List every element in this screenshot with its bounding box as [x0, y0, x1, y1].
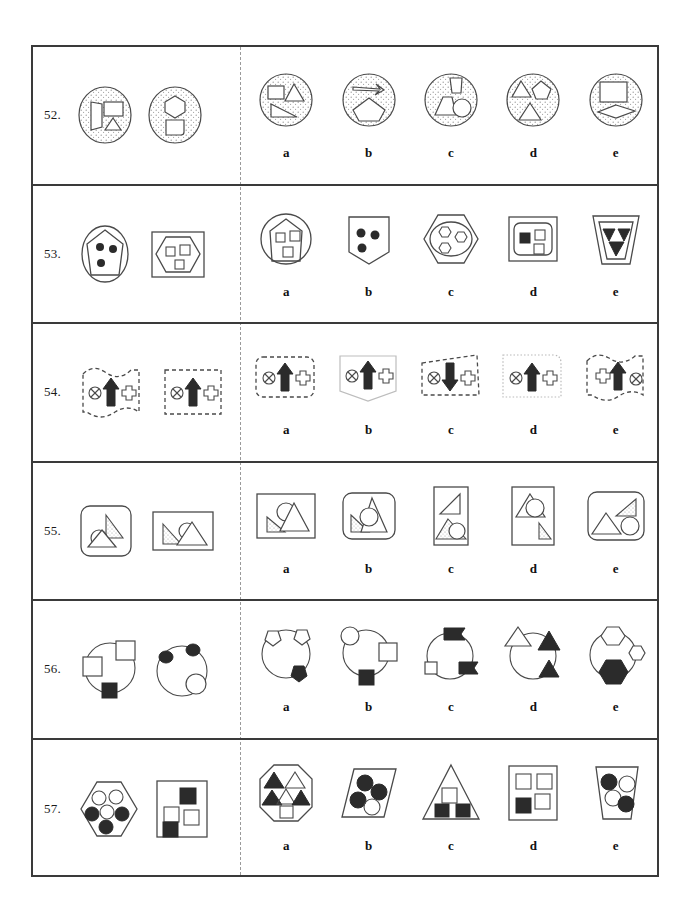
option-figure [340, 196, 398, 282]
option-b[interactable]: b [329, 473, 409, 577]
option-label: c [448, 145, 454, 161]
option-e[interactable]: e [576, 611, 656, 715]
option-e[interactable]: e [576, 473, 656, 577]
question-row-52: 52. [33, 47, 657, 186]
option-figure [504, 196, 562, 282]
option-a[interactable]: a [246, 196, 326, 300]
option-label: d [530, 422, 537, 438]
option-a[interactable]: a [246, 334, 326, 438]
stimulus-figure [75, 777, 141, 841]
option-figure [587, 196, 645, 282]
options-group: a b [245, 186, 657, 323]
option-b[interactable]: b [329, 196, 409, 300]
option-label: c [448, 838, 454, 854]
option-e[interactable]: e [576, 196, 656, 300]
option-figure [428, 473, 474, 559]
option-figure [257, 57, 315, 143]
option-c[interactable]: c [411, 334, 491, 438]
options-group: a b [245, 324, 657, 461]
stimulus-figure [145, 223, 211, 285]
option-e[interactable]: e [576, 750, 656, 854]
option-b[interactable]: b [329, 611, 409, 715]
option-figure [339, 473, 399, 559]
stimulus-figure [147, 502, 219, 560]
option-figure [502, 611, 564, 697]
option-label: d [530, 699, 537, 715]
option-label: a [283, 561, 290, 577]
option-label: b [365, 838, 372, 854]
stimulus-figure [75, 84, 135, 146]
option-label: a [283, 284, 290, 300]
option-figure [420, 611, 482, 697]
stimulus-figure [75, 500, 137, 562]
option-c[interactable]: c [411, 611, 491, 715]
question-row-57: 57. [33, 740, 657, 879]
option-e[interactable]: e [576, 334, 656, 438]
option-label: c [448, 422, 454, 438]
question-number: 52. [44, 107, 61, 123]
options-group: a b [245, 47, 657, 184]
option-d[interactable]: d [493, 196, 573, 300]
question-row-54: 54. [33, 324, 657, 463]
option-figure [333, 334, 405, 420]
option-figure [585, 611, 647, 697]
arrow-trio [89, 378, 136, 406]
option-label: d [530, 838, 537, 854]
option-label: a [283, 699, 290, 715]
option-label: b [365, 422, 372, 438]
stimulus-group [75, 601, 235, 738]
option-label: c [448, 699, 454, 715]
option-label: b [365, 284, 372, 300]
option-d[interactable]: d [493, 473, 573, 577]
option-label: d [530, 561, 537, 577]
stimulus-figure [151, 637, 217, 701]
stimulus-group [75, 186, 235, 323]
stimulus-figure [75, 221, 135, 287]
option-figure [415, 334, 487, 420]
option-c[interactable]: c [411, 196, 491, 300]
option-c[interactable]: c [411, 473, 491, 577]
option-label: e [613, 699, 619, 715]
option-label: a [283, 838, 290, 854]
option-d[interactable]: d [493, 334, 573, 438]
option-a[interactable]: a [246, 611, 326, 715]
option-label: e [613, 838, 619, 854]
option-label: d [530, 145, 537, 161]
option-c[interactable]: c [411, 57, 491, 161]
stimulus-figure [75, 637, 141, 701]
option-a[interactable]: a [246, 57, 326, 161]
option-d[interactable]: d [493, 750, 573, 854]
option-figure [504, 750, 562, 836]
stimulus-group [75, 47, 235, 184]
option-b[interactable]: b [329, 750, 409, 854]
stimulus-figure [75, 362, 147, 422]
option-b[interactable]: b [329, 57, 409, 161]
option-figure [420, 196, 482, 282]
arrow-trio [171, 378, 218, 406]
option-figure [422, 57, 480, 143]
option-label: a [283, 145, 290, 161]
option-figure [338, 750, 400, 836]
worksheet-sheet: 52. [31, 45, 659, 877]
option-figure [253, 473, 319, 559]
option-label: b [365, 145, 372, 161]
option-d[interactable]: d [493, 57, 573, 161]
option-label: b [365, 699, 372, 715]
stimulus-figure [145, 84, 205, 146]
option-label: c [448, 561, 454, 577]
option-a[interactable]: a [246, 750, 326, 854]
question-row-55: 55. [33, 463, 657, 602]
options-group: a b [245, 740, 657, 879]
option-b[interactable]: b [329, 334, 409, 438]
option-e[interactable]: e [576, 57, 656, 161]
option-figure [420, 750, 482, 836]
options-group: a b [245, 463, 657, 600]
question-number: 56. [44, 661, 61, 677]
option-d[interactable]: d [493, 611, 573, 715]
option-label: d [530, 284, 537, 300]
option-label: e [613, 561, 619, 577]
option-a[interactable]: a [246, 473, 326, 577]
option-label: c [448, 284, 454, 300]
option-c[interactable]: c [411, 750, 491, 854]
stimulus-group [75, 463, 235, 600]
